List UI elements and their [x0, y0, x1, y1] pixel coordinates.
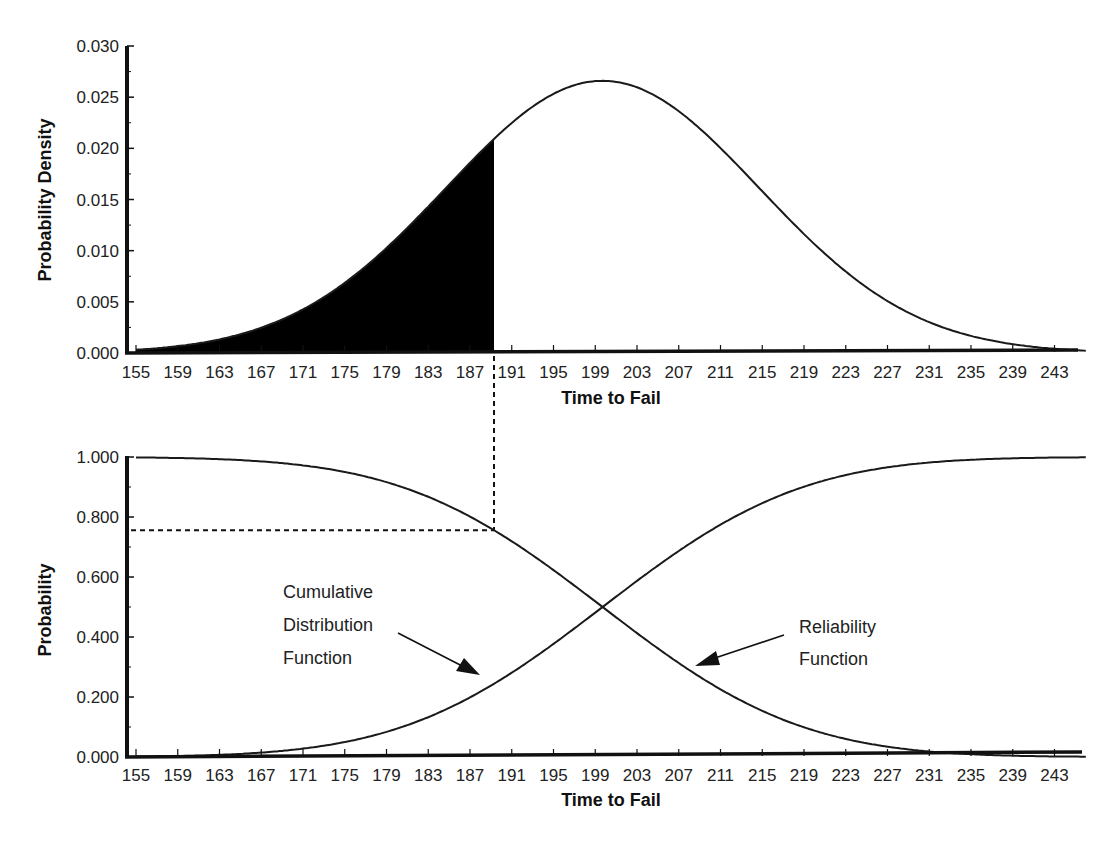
cdf-arrow-shaft [398, 633, 466, 668]
x-tick-label: 187 [456, 766, 484, 785]
x-tick-label: 235 [957, 363, 985, 382]
x-tick-label: 211 [707, 363, 734, 382]
x-tick-label: 183 [414, 363, 442, 382]
reliability-annotation: Reliability Function [695, 617, 876, 669]
y-tick-label: 0.025 [76, 88, 119, 107]
reliability-label-line-1: Reliability [799, 617, 876, 637]
x-tick-label: 155 [122, 766, 150, 785]
x-tick-label: 215 [748, 766, 776, 785]
x-tick-label: 199 [581, 766, 609, 785]
cdf-label-line-1: Cumulative [283, 582, 373, 602]
cdf-arrow-head-icon [456, 658, 480, 675]
x-tick-label: 235 [957, 766, 985, 785]
pdf-y-axis-title: Probability Density [35, 118, 55, 281]
x-tick-label: 163 [205, 363, 233, 382]
x-tick-label: 231 [915, 363, 943, 382]
x-tick-label: 171 [289, 766, 317, 785]
x-tick-label: 243 [1040, 766, 1068, 785]
x-tick-label: 199 [581, 363, 609, 382]
x-tick-label: 179 [372, 363, 400, 382]
x-tick-label: 239 [999, 766, 1027, 785]
y-tick-label: 0.000 [76, 344, 119, 363]
x-tick-label: 183 [414, 766, 442, 785]
y-tick-label: 0.020 [76, 139, 119, 158]
x-tick-label: 195 [539, 766, 567, 785]
x-tick-label: 159 [164, 363, 192, 382]
cdf-annotation: Cumulative Distribution Function [283, 582, 480, 675]
x-tick-label: 231 [915, 766, 943, 785]
y-tick-label: 0.800 [76, 508, 119, 527]
y-tick-label: 0.030 [76, 37, 119, 56]
x-tick-label: 163 [205, 766, 233, 785]
pdf-shaded-area [136, 139, 494, 353]
x-tick-label: 215 [748, 363, 776, 382]
pdf-curve [136, 81, 1086, 351]
x-tick-label: 223 [832, 766, 860, 785]
reliability-arrow-shaft [712, 635, 784, 659]
cdf-label-line-2: Distribution [283, 615, 373, 635]
x-tick-label: 243 [1040, 363, 1068, 382]
x-tick-label: 171 [289, 363, 317, 382]
pdf-chart: 0.0000.0050.0100.0150.0200.0250.030 1551… [35, 37, 1086, 408]
y-tick-label: 0.005 [76, 293, 119, 312]
x-tick-label: 179 [372, 766, 400, 785]
x-tick-label: 211 [707, 766, 734, 785]
x-tick-label: 207 [665, 363, 693, 382]
reliability-arrow-head-icon [695, 651, 720, 666]
reliability-figure: 0.0000.0050.0100.0150.0200.0250.030 1551… [0, 0, 1112, 841]
x-tick-label: 167 [247, 766, 275, 785]
x-tick-label: 207 [665, 766, 693, 785]
y-tick-label: 1.000 [76, 448, 119, 467]
reliability-label-line-2: Function [799, 649, 868, 669]
x-tick-label: 187 [456, 363, 484, 382]
x-tick-label: 203 [623, 363, 651, 382]
x-tick-label: 227 [873, 363, 901, 382]
x-tick-label: 239 [999, 363, 1027, 382]
x-tick-label: 195 [539, 363, 567, 382]
x-tick-label: 203 [623, 766, 651, 785]
y-tick-label: 0.200 [76, 688, 119, 707]
pdf-x-axis-title: Time to Fail [561, 388, 661, 408]
y-tick-label: 0.000 [76, 748, 119, 767]
prob-x-axis-title: Time to Fail [561, 790, 661, 810]
x-tick-label: 155 [122, 363, 150, 382]
prob-y-axis-title: Probability [35, 563, 55, 656]
x-tick-label: 191 [498, 766, 526, 785]
reliability-curve [136, 457, 1086, 756]
x-tick-label: 175 [331, 766, 359, 785]
x-tick-label: 167 [247, 363, 275, 382]
y-tick-label: 0.015 [76, 191, 119, 210]
cdf-label-line-3: Function [283, 648, 352, 668]
y-tick-label: 0.010 [76, 242, 119, 261]
x-tick-label: 159 [164, 766, 192, 785]
x-tick-label: 219 [790, 766, 818, 785]
x-tick-label: 223 [832, 363, 860, 382]
y-tick-label: 0.600 [76, 568, 119, 587]
x-tick-label: 175 [331, 363, 359, 382]
x-tick-label: 219 [790, 363, 818, 382]
x-tick-label: 191 [498, 363, 526, 382]
y-tick-label: 0.400 [76, 628, 119, 647]
cdf-reliability-chart: 0.0000.2000.4000.6000.8001.000 155159163… [35, 448, 1086, 810]
x-tick-label: 227 [873, 766, 901, 785]
cdf-curve [136, 457, 1086, 756]
